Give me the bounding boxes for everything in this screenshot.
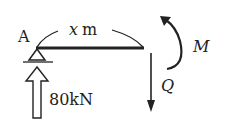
length-label: x m: [69, 20, 97, 39]
dimension-arc-right: [112, 30, 143, 47]
pin-support-icon: [23, 49, 53, 62]
reaction-arrow-icon: [26, 67, 48, 118]
shear-label: Q: [161, 76, 174, 95]
svg-text:x: x: [69, 20, 78, 39]
dimension-arc-left: [37, 31, 58, 47]
reaction-force-label: 80kN: [49, 90, 93, 109]
svg-text:m: m: [82, 20, 97, 39]
moment-arrow-icon: [166, 20, 181, 69]
support-label: A: [17, 27, 30, 46]
moment-label: M: [192, 37, 210, 56]
beam-diagram: A x m 80kN M Q: [0, 0, 231, 123]
